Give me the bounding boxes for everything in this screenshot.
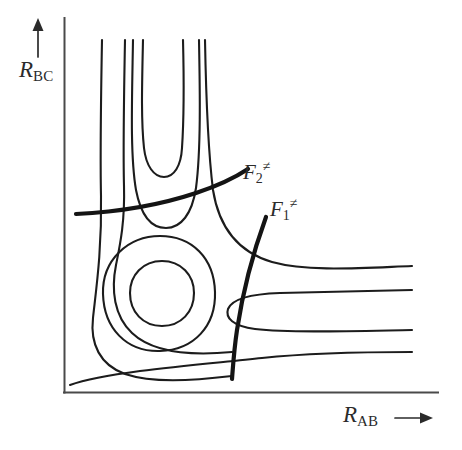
contour-plot-canvas	[0, 0, 462, 450]
contour-inner-parabola	[142, 40, 184, 177]
f2-symbol: F	[243, 160, 256, 184]
dividing-surface-f1-label: F1≠	[270, 197, 298, 223]
y-axis-symbol: R	[19, 57, 33, 82]
f1-symbol: F	[270, 197, 283, 221]
dividing-surface-f2-label: F2≠	[243, 160, 271, 186]
contour-well-inner	[130, 261, 194, 326]
x-axis-arrow-icon	[395, 413, 433, 424]
contour-well-outer	[103, 236, 215, 351]
contour-exit-lower	[70, 352, 412, 385]
x-axis-subscript: AB	[357, 413, 378, 429]
contour-right-channel-boundary	[205, 40, 412, 269]
y-axis-arrow-icon	[33, 18, 44, 57]
x-axis-label: RAB	[343, 403, 378, 429]
f2-superscript: ≠	[263, 159, 271, 174]
f1-superscript: ≠	[290, 196, 298, 211]
y-axis-label: RBC	[19, 58, 53, 84]
y-axis-subscript: BC	[33, 68, 53, 84]
f1-subscript: 1	[283, 208, 290, 223]
f2-subscript: 2	[256, 171, 263, 186]
x-axis-symbol: R	[343, 402, 357, 427]
contour-exit-upper	[227, 290, 412, 331]
pes-contour-diagram: RBC RAB F2≠ F1≠	[0, 0, 462, 450]
